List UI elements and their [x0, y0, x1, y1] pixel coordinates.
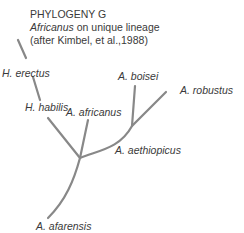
taxon-label-a-boisei: A. boisei [118, 70, 158, 82]
branch-a-afarensis [48, 158, 80, 218]
taxon-label-a-aethiopicus: A. aethiopicus [115, 144, 181, 156]
taxon-label-h-habilis: H. habilis [25, 101, 68, 113]
branch-h-erectus-tip [18, 40, 26, 58]
phylogeny-diagram: PHYLOGENY G Africanus on unique lineage … [0, 0, 244, 233]
taxon-label-a-robustus: A. robustus [180, 84, 233, 96]
phylogenetic-tree [0, 0, 244, 233]
taxon-label-h-erectus: H. erectus [2, 67, 50, 79]
taxon-label-a-africanus: A. africanus [66, 106, 121, 118]
branch-h-habilis [48, 118, 80, 158]
branch-h-erectus [33, 77, 40, 100]
branch-a-africanus [80, 120, 88, 158]
branch-a-boisei [132, 86, 135, 126]
taxon-label-a-afarensis: A. afarensis [36, 220, 91, 232]
